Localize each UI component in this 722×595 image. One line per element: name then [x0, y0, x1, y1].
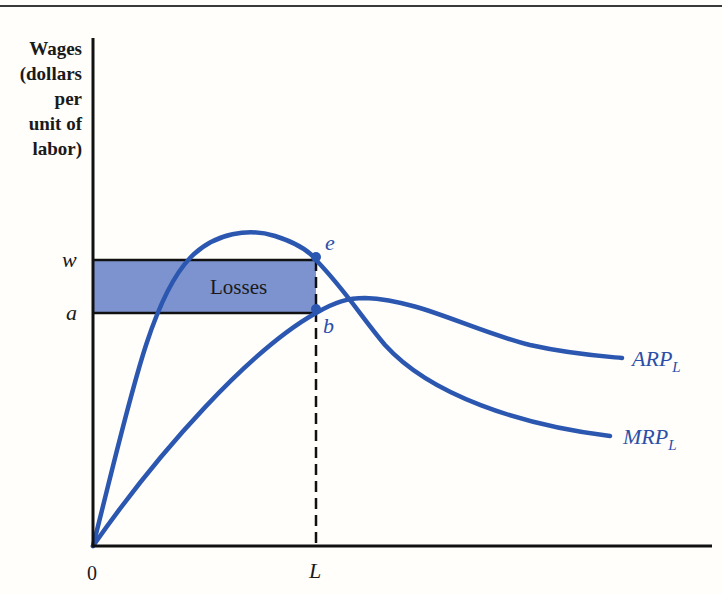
- y-tick-w: w: [62, 247, 77, 272]
- point-b: [311, 304, 321, 314]
- wage-losses-diagram: Wages (dollars per unit of labor) Losses…: [0, 0, 722, 595]
- point-e-label: e: [325, 230, 335, 255]
- x-tick-l: L: [308, 558, 321, 583]
- point-b-label: b: [323, 313, 334, 338]
- arp-label: ARPL: [630, 346, 681, 375]
- y-axis-label-line: per: [20, 86, 82, 111]
- y-axis-label: Wages (dollars per unit of labor): [20, 36, 82, 161]
- y-axis-label-line: labor): [20, 136, 82, 161]
- point-e: [311, 252, 321, 262]
- y-tick-a: a: [66, 300, 77, 325]
- y-axis-label-line: (dollars: [20, 61, 82, 86]
- chart-canvas: Losses e b w a 0 L ARPL MRPL: [0, 0, 722, 595]
- y-axis-label-line: unit of: [20, 111, 82, 136]
- y-axis-label-line: Wages: [20, 36, 82, 61]
- origin-label: 0: [87, 562, 97, 584]
- losses-region: [93, 260, 316, 313]
- mrp-label: MRPL: [622, 424, 677, 453]
- losses-label: Losses: [210, 275, 267, 299]
